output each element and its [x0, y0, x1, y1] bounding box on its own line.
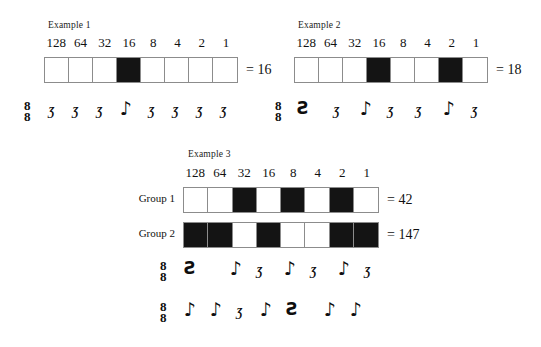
example-2-block: Example 2 1286432168421 = 18 88ƧƷ♪ƷƷ♪Ʒ — [275, 0, 541, 140]
eighth-note-icon: ♪ — [230, 259, 242, 278]
bit-label-4: 4 — [306, 166, 331, 179]
bit-cell-2-on[interactable] — [330, 223, 354, 247]
example-3-music-row-1: 88♪♪Ʒ♪Ƨ♪♪ — [160, 300, 375, 330]
example-1-equals-0: = 16 — [246, 62, 271, 78]
eighth-rest-icon: Ʒ — [365, 264, 371, 277]
eighth-note-icon: ♪ — [360, 99, 372, 118]
bit-cell-4-off[interactable] — [305, 223, 329, 247]
example-3-title: Example 3 — [188, 149, 231, 159]
bit-label-1: 1 — [355, 166, 380, 179]
eighth-rest-icon: Ʒ — [237, 305, 243, 318]
bit-cell-4-off[interactable] — [165, 58, 189, 82]
bit-cell-128-off[interactable] — [184, 188, 208, 212]
bit-cell-16-on[interactable] — [117, 58, 141, 82]
bit-label-1: 1 — [464, 36, 488, 49]
bit-cell-4-off[interactable] — [305, 188, 329, 212]
eighth-rest-icon: Ʒ — [73, 104, 79, 117]
bit-cell-16-on[interactable] — [367, 58, 391, 82]
example-3-row-label-1: Group 2 — [113, 227, 175, 239]
eighth-note-icon: ♪ — [324, 300, 336, 319]
example-3-bit-row-0 — [183, 187, 379, 213]
bit-cell-128-off[interactable] — [295, 58, 319, 82]
bit-cell-32-on[interactable] — [233, 188, 257, 212]
eighth-note-icon: ♪ — [210, 300, 222, 319]
eighth-rest-icon: Ʒ — [388, 104, 394, 117]
example-3-music-row-0: 88Ƨ♪Ʒ♪Ʒ♪Ʒ — [160, 259, 375, 289]
time-signature: 88 — [160, 302, 167, 323]
bit-cell-4-off[interactable] — [415, 58, 439, 82]
eighth-note-icon: ♪ — [284, 259, 296, 278]
bit-cell-2-on[interactable] — [330, 188, 354, 212]
bit-label-32: 32 — [343, 36, 367, 49]
bit-label-8: 8 — [391, 36, 415, 49]
eighth-rest-icon: Ʒ — [334, 104, 340, 117]
bit-cell-128-off[interactable] — [45, 58, 69, 82]
bit-label-32: 32 — [93, 36, 117, 49]
bit-cell-2-off[interactable] — [189, 58, 213, 82]
bit-cell-16-on[interactable] — [257, 223, 281, 247]
bit-label-32: 32 — [232, 166, 257, 179]
bit-cell-8-off[interactable] — [391, 58, 415, 82]
time-signature-bottom: 8 — [275, 112, 282, 123]
example-3-block: Example 3 1286432168421 Group 1 = 42 Gro… — [0, 145, 541, 347]
example-1-bit-row-0 — [44, 57, 238, 83]
bit-cell-8-off[interactable] — [141, 58, 165, 82]
time-signature-bottom: 8 — [160, 272, 167, 283]
eighth-rest-icon: Ʒ — [221, 104, 227, 117]
bit-cell-8-off[interactable] — [281, 223, 305, 247]
example-2-bit-labels: 1286432168421 — [294, 36, 488, 49]
bit-label-128: 128 — [44, 36, 68, 49]
example-3-bit-row-1 — [183, 222, 379, 248]
bit-label-8: 8 — [141, 36, 165, 49]
eighth-rest-icon: Ʒ — [311, 264, 317, 277]
bit-cell-1-on[interactable] — [354, 223, 378, 247]
bit-cell-32-off[interactable] — [343, 58, 367, 82]
example-1-bit-labels: 1286432168421 — [44, 36, 238, 49]
bit-cell-64-on[interactable] — [208, 223, 232, 247]
bit-label-1: 1 — [214, 36, 238, 49]
eighth-note-icon: ♪ — [184, 300, 196, 319]
bit-cell-64-off[interactable] — [69, 58, 93, 82]
example-2-equals-0: = 18 — [496, 62, 521, 78]
bit-label-64: 64 — [318, 36, 342, 49]
example-1-music-row-0: 88ƷƷƷ♪ƷƷƷƷ — [24, 99, 239, 129]
bit-label-16: 16 — [367, 36, 391, 49]
example-3-row-label-0: Group 1 — [113, 192, 175, 204]
eighth-rest-icon: Ʒ — [197, 104, 203, 117]
eighth-rest-icon: Ʒ — [472, 104, 478, 117]
quarter-rest-icon: Ƨ — [184, 260, 196, 277]
bit-label-128: 128 — [294, 36, 318, 49]
bit-cell-32-off[interactable] — [233, 223, 257, 247]
example-1-title: Example 1 — [48, 20, 91, 30]
bit-label-8: 8 — [281, 166, 306, 179]
bit-cell-8-on[interactable] — [281, 188, 305, 212]
bit-label-2: 2 — [440, 36, 464, 49]
example-1-block: Example 1 1286432168421 = 16 88ƷƷƷ♪ƷƷƷƷ — [0, 0, 270, 140]
eighth-rest-icon: Ʒ — [49, 104, 55, 117]
bit-label-16: 16 — [257, 166, 282, 179]
time-signature: 88 — [24, 101, 31, 122]
eighth-note-icon: ♪ — [338, 259, 350, 278]
bit-label-2: 2 — [190, 36, 214, 49]
bit-cell-2-on[interactable] — [439, 58, 463, 82]
bit-cell-1-off[interactable] — [463, 58, 487, 82]
example-2-music-row-0: 88ƧƷ♪ƷƷ♪Ʒ — [275, 99, 490, 129]
bit-cell-1-off[interactable] — [213, 58, 237, 82]
bit-cell-1-off[interactable] — [354, 188, 378, 212]
example-3-equals-1: = 147 — [387, 227, 419, 243]
time-signature-bottom: 8 — [24, 112, 31, 123]
bit-cell-64-off[interactable] — [319, 58, 343, 82]
bit-label-64: 64 — [208, 166, 233, 179]
bit-cell-128-on[interactable] — [184, 223, 208, 247]
example-3-equals-0: = 42 — [387, 192, 412, 208]
bit-label-4: 4 — [165, 36, 189, 49]
time-signature: 88 — [275, 101, 282, 122]
eighth-rest-icon: Ʒ — [173, 104, 179, 117]
eighth-rest-icon: Ʒ — [149, 104, 155, 117]
bit-cell-64-off[interactable] — [208, 188, 232, 212]
bit-cell-32-off[interactable] — [93, 58, 117, 82]
bit-label-64: 64 — [68, 36, 92, 49]
bit-cell-16-off[interactable] — [257, 188, 281, 212]
eighth-note-icon: ♪ — [350, 300, 362, 319]
bit-label-128: 128 — [183, 166, 208, 179]
